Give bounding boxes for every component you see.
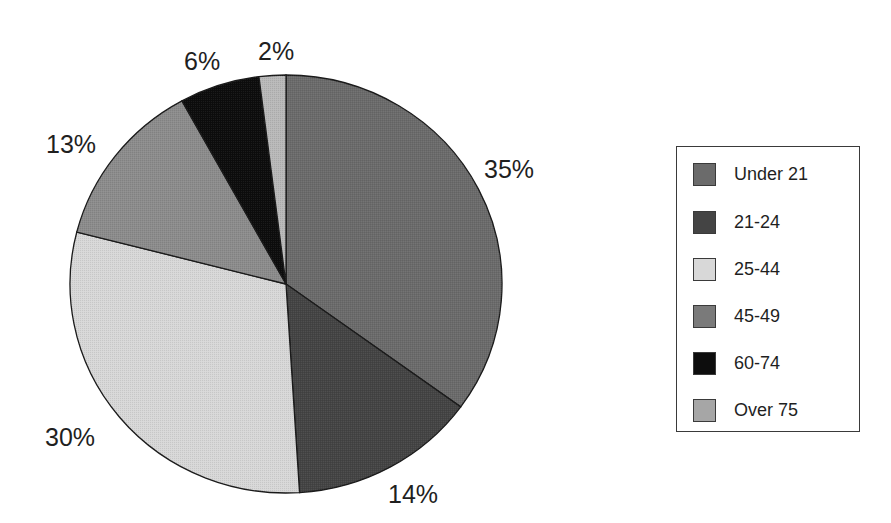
legend-label: 60-74 xyxy=(734,353,780,374)
legend-item: 21-24 xyxy=(693,210,780,234)
slice-percent-label: 30% xyxy=(45,423,95,451)
legend-swatch xyxy=(693,258,716,281)
slice-percent-label: 6% xyxy=(184,47,220,75)
legend-swatch xyxy=(693,399,716,422)
slice-percent-label: 35% xyxy=(484,155,534,183)
slice-percent-label: 14% xyxy=(388,480,438,508)
legend-swatch xyxy=(693,352,716,375)
pie-slices xyxy=(70,75,502,493)
legend-label: 25-44 xyxy=(734,259,780,280)
legend-label: 45-49 xyxy=(734,306,780,327)
legend-item: 45-49 xyxy=(693,304,780,328)
slice-percent-label: 2% xyxy=(258,37,294,65)
slice-percent-label: 13% xyxy=(46,130,96,158)
legend-item: 60-74 xyxy=(693,351,780,375)
legend: Under 2121-2425-4445-4960-74Over 75 xyxy=(676,146,860,432)
legend-label: Over 75 xyxy=(734,400,798,421)
legend-label: Under 21 xyxy=(734,164,808,185)
legend-swatch xyxy=(693,163,716,186)
legend-swatch xyxy=(693,305,716,328)
legend-item: Over 75 xyxy=(693,398,798,422)
legend-swatch xyxy=(693,211,716,234)
legend-item: 25-44 xyxy=(693,257,780,281)
legend-item: Under 21 xyxy=(693,162,808,186)
legend-label: 21-24 xyxy=(734,212,780,233)
